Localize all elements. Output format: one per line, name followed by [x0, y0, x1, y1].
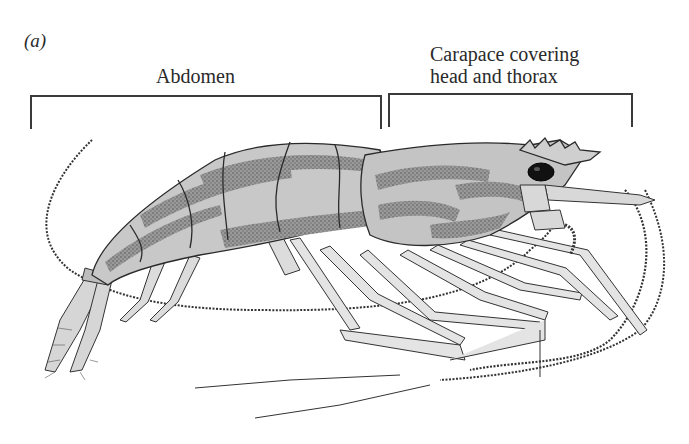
shrimp-illustration: [0, 0, 689, 444]
tail-fan: [45, 268, 112, 372]
eye: [528, 163, 554, 181]
walking-legs: [290, 230, 647, 377]
